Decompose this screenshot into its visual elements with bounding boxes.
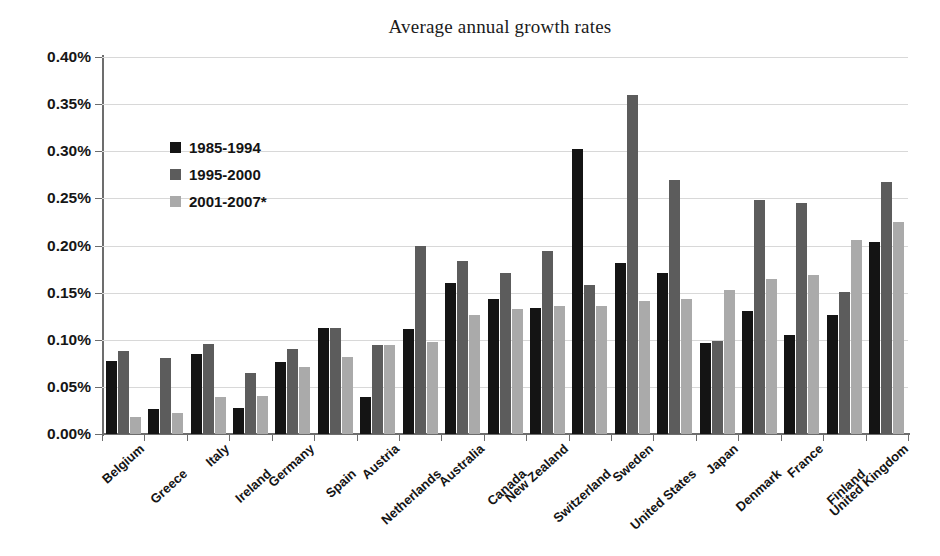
y-axis-tick-mark	[95, 198, 102, 199]
x-axis-tick-mark	[696, 434, 697, 441]
x-axis-tick-mark	[399, 434, 400, 441]
bar	[160, 358, 171, 434]
bar	[287, 349, 298, 434]
bar	[700, 343, 711, 434]
x-axis-tick-mark	[272, 434, 273, 441]
x-axis-tick-mark	[102, 434, 103, 441]
bar	[657, 273, 668, 434]
bar-group	[488, 57, 523, 434]
y-axis-tick-mark	[95, 293, 102, 294]
y-axis-tick-mark	[95, 340, 102, 341]
bar-group	[233, 57, 268, 434]
y-axis-tick-mark	[95, 387, 102, 388]
legend-swatch-icon	[170, 169, 181, 180]
bar	[372, 345, 383, 434]
bar	[299, 367, 310, 434]
bar	[839, 292, 850, 434]
bar	[330, 328, 341, 435]
bar	[457, 261, 468, 434]
chart-figure: Average annual growth rates 0.00%0.05%0.…	[0, 0, 940, 556]
bar	[257, 396, 268, 434]
chart-legend: 1985-19941995-20002001-2007*	[170, 134, 267, 215]
bar	[584, 285, 595, 434]
bar	[445, 283, 456, 434]
bar	[669, 180, 680, 434]
legend-swatch-icon	[170, 142, 181, 153]
x-axis-tick-mark	[781, 434, 782, 441]
legend-item[interactable]: 2001-2007*	[170, 188, 267, 215]
x-axis-tick-mark	[441, 434, 442, 441]
x-axis-category-label: Switzerland	[550, 466, 614, 525]
y-axis-tick-label: 0.05%	[47, 378, 91, 396]
bar-group	[445, 57, 480, 434]
x-axis-tick-mark	[484, 434, 485, 441]
bar	[318, 328, 329, 434]
bar	[191, 354, 202, 434]
bar	[893, 222, 904, 434]
x-axis-tick-mark	[187, 434, 188, 441]
bar	[415, 246, 426, 435]
x-axis-category-label: Belgium	[99, 441, 147, 486]
bar-group	[657, 57, 692, 434]
x-axis-category-label: Netherlands	[378, 466, 444, 527]
bar-group	[318, 57, 353, 434]
bar	[360, 397, 371, 434]
y-axis-tick-mark	[95, 434, 102, 435]
bar-group	[869, 57, 904, 434]
bar-group	[403, 57, 438, 434]
y-axis-tick-label: 0.25%	[47, 189, 91, 207]
bar	[118, 351, 129, 434]
bar	[106, 361, 117, 435]
legend-label: 2001-2007*	[189, 193, 267, 210]
bar	[827, 315, 838, 434]
x-axis-category-label: Australia	[435, 441, 486, 489]
bar	[572, 149, 583, 434]
bar	[488, 299, 499, 434]
bar	[469, 315, 480, 434]
bar	[512, 309, 523, 434]
x-axis-tick-mark	[908, 434, 909, 441]
bar	[500, 273, 511, 434]
legend-swatch-icon	[170, 196, 181, 207]
legend-item[interactable]: 1985-1994	[170, 134, 267, 161]
y-axis-tick-label: 0.15%	[47, 284, 91, 302]
legend-item[interactable]: 1995-2000	[170, 161, 267, 188]
bar	[342, 357, 353, 434]
x-axis-category-label: United States	[627, 466, 699, 533]
x-axis-tick-mark	[526, 434, 527, 441]
x-axis-tick-mark	[866, 434, 867, 441]
bar-group	[742, 57, 777, 434]
y-axis-tick-label: 0.40%	[47, 48, 91, 66]
bar	[796, 203, 807, 434]
bar	[530, 308, 541, 434]
bar	[766, 279, 777, 435]
bar	[130, 417, 141, 434]
y-axis-tick-label: 0.30%	[47, 142, 91, 160]
bar-group	[275, 57, 310, 434]
y-axis-tick-mark	[95, 57, 102, 58]
plot-area: 0.00%0.05%0.10%0.15%0.20%0.25%0.30%0.35%…	[102, 57, 908, 434]
bar	[275, 362, 286, 434]
bar-group	[700, 57, 735, 434]
y-axis-tick-mark	[95, 104, 102, 105]
y-axis-tick-mark	[95, 246, 102, 247]
x-axis-category-label: Italy	[203, 441, 232, 470]
x-axis-category-label: Japan	[703, 441, 741, 477]
bar	[784, 335, 795, 434]
bar-group	[360, 57, 395, 434]
legend-label: 1995-2000	[189, 166, 261, 183]
x-axis-category-label: United Kingdom	[826, 441, 911, 519]
bar-group	[572, 57, 607, 434]
x-axis-tick-mark	[823, 434, 824, 441]
x-axis-category-label: Germany	[265, 441, 317, 490]
bar	[384, 345, 395, 434]
x-axis-tick-mark	[611, 434, 612, 441]
bar	[427, 342, 438, 434]
x-axis-tick-mark	[738, 434, 739, 441]
x-axis-category-label: Ireland	[233, 466, 275, 506]
x-axis-category-label: France	[784, 441, 826, 481]
bar	[754, 200, 765, 434]
bar	[203, 344, 214, 434]
bar	[869, 242, 880, 434]
y-axis-tick-label: 0.20%	[47, 237, 91, 255]
